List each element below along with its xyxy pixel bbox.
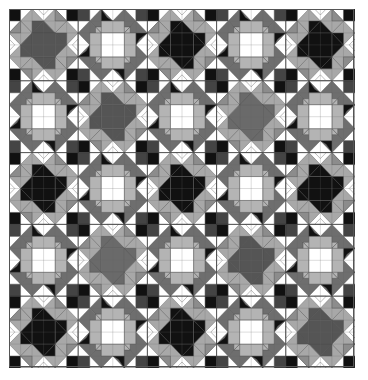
quilt-image — [9, 9, 355, 368]
quilt-pattern — [9, 9, 355, 368]
